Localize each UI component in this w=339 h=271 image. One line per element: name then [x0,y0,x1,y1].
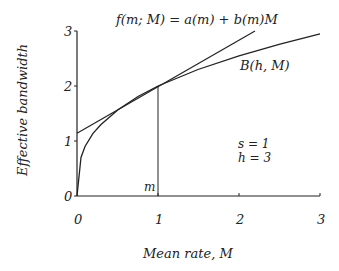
chart: 3 2 1 0 0 1 2 3 f(m; M) = a(m) + b(m)M B… [0,0,339,271]
param-s: s = 1 [238,137,269,151]
param-h: h = 3 [238,151,271,165]
x-tick-1: 1 [155,212,163,227]
x-tick-2: 2 [235,212,244,227]
x-axis-label: Mean rate, M [142,246,233,261]
y-tick-3: 3 [64,24,72,39]
y-axis-label: Effective bandwidth [15,44,30,177]
y-tick-2: 2 [63,79,72,94]
x-tick-0: 0 [74,212,82,227]
y-tick-0: 0 [64,189,72,204]
curve-label: B(h, M) [239,58,290,73]
tangent-line [77,31,255,133]
y-tick-1: 1 [64,134,72,149]
m-label: m [144,180,155,194]
tangent-label: f(m; M) = a(m) + b(m)M [115,12,278,27]
x-tick-3: 3 [317,212,325,227]
